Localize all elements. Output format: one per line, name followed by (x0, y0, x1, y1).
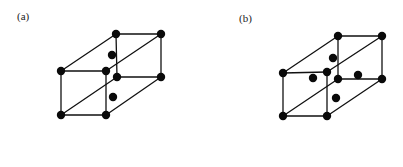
face-centered-atom (332, 94, 340, 102)
corner-atom (112, 30, 120, 38)
face-centered-atom (309, 74, 317, 82)
corner-atom (334, 75, 342, 83)
corner-atom (378, 32, 386, 40)
corner-atom (113, 73, 121, 81)
lattice-edge (283, 79, 338, 116)
corner-atom (102, 111, 110, 119)
face-centered-atom (354, 71, 362, 79)
panel-a-unit-cell (57, 30, 165, 119)
panel-a-atoms (57, 30, 165, 119)
corner-atom (334, 32, 342, 40)
corner-atom (157, 30, 165, 38)
panel-a-edges (61, 34, 161, 115)
corner-atom (378, 75, 386, 83)
corner-atom (57, 111, 65, 119)
corner-atom (279, 112, 287, 120)
corner-atom (57, 67, 65, 75)
panel-b-unit-cell (279, 32, 386, 120)
corner-atom (279, 69, 287, 77)
corner-atom (102, 67, 110, 75)
face-centered-atom (108, 51, 116, 59)
lattice-edge (61, 77, 117, 115)
lattice-edge (283, 72, 327, 73)
lattice-edge (327, 36, 382, 72)
lattice-figure (0, 0, 403, 167)
corner-atom (323, 68, 331, 76)
face-centered-atom (109, 93, 117, 101)
panel-b-atoms (279, 32, 386, 120)
panel-b-edges (283, 36, 382, 116)
corner-atom (323, 112, 331, 120)
lattice-edge (283, 36, 338, 73)
corner-atom (157, 73, 165, 81)
lattice-edge (61, 34, 116, 71)
face-centered-atom (329, 54, 337, 62)
